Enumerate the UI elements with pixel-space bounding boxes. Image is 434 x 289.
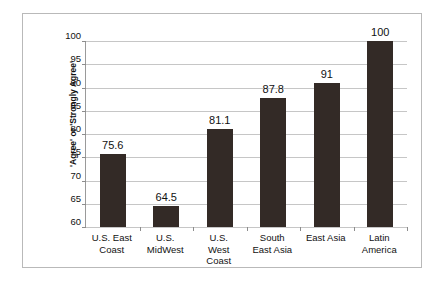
x-category-label: East Asia <box>299 232 353 244</box>
y-tick-label: 90 <box>49 78 81 88</box>
y-axis-tick-labels: 1009590858075706560 <box>49 36 81 222</box>
x-category-label-line: U.S. <box>139 232 193 244</box>
y-tick-label: 65 <box>49 194 81 204</box>
x-tick-mark <box>300 227 301 231</box>
x-tick-mark <box>407 227 408 231</box>
x-category-label: LatinAmerica <box>353 232 407 255</box>
x-category-label-line: MidWest <box>139 244 193 256</box>
x-category-label: U.S. EastCoast <box>85 232 139 255</box>
x-category-label-line: Latin <box>353 232 407 244</box>
bar-slot: 64.5 <box>140 41 194 227</box>
x-tick-mark <box>140 227 141 231</box>
bar[interactable] <box>260 98 286 227</box>
bar[interactable] <box>367 41 393 227</box>
x-category-label: SouthEast Asia <box>246 232 300 255</box>
y-tick-label: 70 <box>49 171 81 181</box>
y-tick-label: 95 <box>49 54 81 64</box>
bar-slot: 75.6 <box>86 41 140 227</box>
x-tick-mark <box>354 227 355 231</box>
y-tick-label: 85 <box>49 101 81 111</box>
x-category-label: U.S.MidWest <box>139 232 193 255</box>
bar-value-label: 87.8 <box>263 83 284 95</box>
x-category-label-line: West <box>192 244 246 256</box>
y-tick-label: 60 <box>49 217 81 227</box>
bar-slot: 87.8 <box>247 41 301 227</box>
bar-value-label: 91 <box>321 68 333 80</box>
bar-value-label: 100 <box>371 26 389 38</box>
x-category-label-line: East Asia <box>246 244 300 256</box>
bars-layer: 75.664.581.187.891100 <box>86 41 407 227</box>
bar-value-label: 64.5 <box>156 191 177 203</box>
y-tick-mark <box>82 227 86 228</box>
x-category-label-line: Coast <box>85 244 139 256</box>
x-category-label-line: East Asia <box>299 232 353 244</box>
bar[interactable] <box>153 206 179 227</box>
x-category-label: U.S.WestCoast <box>192 232 246 267</box>
plot-area: 75.664.581.187.891100 <box>85 41 407 228</box>
bar[interactable] <box>100 154 126 227</box>
x-tick-mark <box>193 227 194 231</box>
bar-slot: 100 <box>354 41 408 227</box>
bar-slot: 81.1 <box>193 41 247 227</box>
bar-value-label: 81.1 <box>209 114 230 126</box>
x-category-label-line: U.S. <box>192 232 246 244</box>
bar-chart-figure: 'Agree' or 'Strongly Agree' 100959085807… <box>0 0 434 289</box>
bar-slot: 91 <box>300 41 354 227</box>
x-axis-category-labels: U.S. EastCoastU.S.MidWestU.S.WestCoastSo… <box>85 232 406 278</box>
x-category-label-line: U.S. East <box>85 232 139 244</box>
x-category-label-line: Coast <box>192 255 246 267</box>
y-tick-label: 75 <box>49 147 81 157</box>
x-tick-mark <box>247 227 248 231</box>
x-category-label-line: America <box>353 244 407 256</box>
bar[interactable] <box>207 129 233 227</box>
bar-value-label: 75.6 <box>102 139 123 151</box>
y-tick-label: 100 <box>49 31 81 41</box>
bar[interactable] <box>314 83 340 227</box>
chart-frame: 'Agree' or 'Strongly Agree' 100959085807… <box>22 13 422 268</box>
y-tick-label: 80 <box>49 124 81 134</box>
x-category-label-line: South <box>246 232 300 244</box>
